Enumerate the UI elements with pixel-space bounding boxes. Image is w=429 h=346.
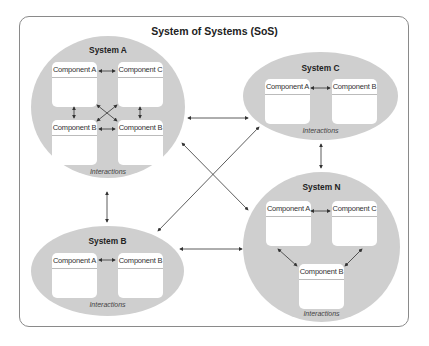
arrow-systemA-systemN <box>182 143 248 210</box>
connection-arrows <box>0 0 429 346</box>
arrow-systemB-systemC <box>158 127 259 231</box>
arrow-n-compC-compB <box>345 249 362 266</box>
arrow-n-compA-compB <box>278 249 297 266</box>
